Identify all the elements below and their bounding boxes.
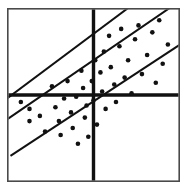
scatter-point (95, 122, 100, 127)
scatter-point (83, 115, 88, 120)
scatter-point (102, 49, 107, 54)
scatter-point (89, 79, 94, 84)
scatter-point (119, 27, 124, 32)
scatter-point (112, 82, 117, 87)
scatter-point (81, 86, 86, 91)
scatter-point (38, 114, 43, 119)
scatter-point (126, 58, 131, 63)
scatter-point (117, 44, 122, 49)
scatter-point (65, 79, 70, 84)
scatter-point (157, 18, 162, 23)
scatter-point (114, 100, 119, 105)
scatter-point (69, 110, 74, 115)
scatter-point (91, 98, 96, 103)
scatter-point (153, 81, 158, 86)
scatter-point (84, 103, 89, 108)
scatter-point (107, 34, 112, 39)
scatter-point (122, 75, 127, 80)
scatter-plot (0, 0, 189, 190)
scatter-point (160, 61, 165, 66)
scatter-point (62, 96, 67, 101)
scatter-point (58, 133, 63, 138)
scatter-point (86, 134, 91, 139)
scatter-point (74, 94, 79, 99)
scatter-point (136, 23, 141, 28)
scatter-point (43, 129, 48, 134)
scatter-point (57, 119, 62, 124)
scatter-point (76, 141, 81, 146)
scatter-point (53, 105, 58, 110)
scatter-point (140, 72, 145, 77)
scatter-point (100, 89, 105, 94)
scatter-point (150, 30, 155, 35)
scatter-point (145, 53, 150, 58)
scatter-point (93, 58, 98, 63)
scatter-point (27, 119, 32, 124)
scatter-point (70, 126, 75, 131)
scatter-point (27, 107, 32, 112)
scatter-point (133, 37, 138, 42)
scatter-point (166, 42, 171, 47)
scatter-point (98, 70, 103, 75)
scatter-point (79, 68, 84, 73)
scatter-point (50, 84, 55, 89)
figure-root (0, 0, 189, 190)
scatter-point (109, 65, 114, 70)
scatter-point (129, 91, 134, 96)
scatter-point (103, 107, 108, 112)
scatter-point (19, 100, 24, 105)
